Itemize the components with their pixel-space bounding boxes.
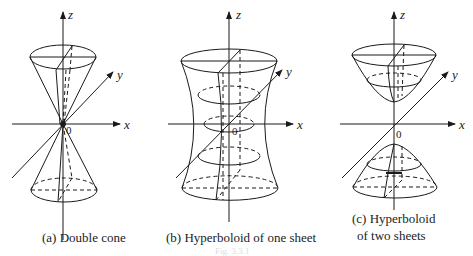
panel-b-z-label: z [235,7,241,22]
panel-a-y-label: y [115,67,123,82]
panel-a-origin-label: 0 [66,124,72,136]
caption-c-line1: (c) Hyperboloid [352,211,435,226]
figure-number-label: Fig. 3.3.1 [215,246,250,256]
caption-b: (b) Hyperboloid of one sheet [166,230,316,245]
panel-c-origin-label: 0 [396,128,402,140]
panel-a-x-label: x [123,117,130,132]
panel-a-z-label: z [67,7,73,22]
y-axis [342,72,448,178]
caption-c-line2: of two sheets [357,228,426,243]
panel-b-origin-label: 0 [232,125,238,137]
panel-c-y-label: y [450,67,458,82]
panel-c-hyperboloid-two-sheets [340,12,455,210]
caption-a: (a) Double cone [42,230,126,245]
panel-c-z-label: z [399,7,405,22]
panel-b-hyperboloid-one-sheet [168,12,293,222]
panel-c-x-label: x [458,117,465,132]
panel-b-x-label: x [296,117,303,132]
panel-b-y-label: y [284,64,292,79]
